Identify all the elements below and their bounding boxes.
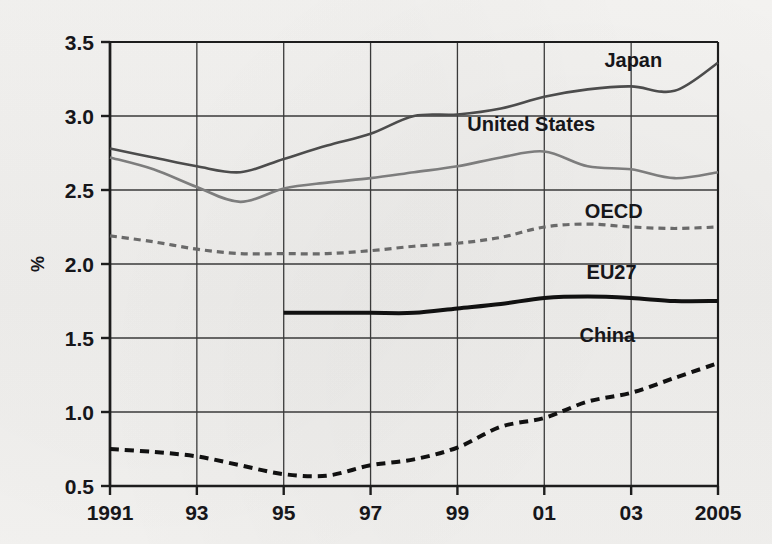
y-tick-label: 3.0 <box>65 105 94 128</box>
series-line-eu27 <box>284 297 718 314</box>
series-line-japan <box>110 63 718 173</box>
chart-container: 3.53.02.52.01.51.00.51991939597990103200… <box>0 0 772 544</box>
x-tick-label: 1991 <box>87 501 134 524</box>
y-tick-label: 1.0 <box>65 401 94 424</box>
series-label-united-states: United States <box>467 113 595 135</box>
y-tick-label: 2.5 <box>65 179 95 202</box>
x-tick-label: 99 <box>446 501 469 524</box>
y-tick-label: 2.0 <box>65 253 94 276</box>
y-tick-label: 0.5 <box>65 475 95 498</box>
series-line-oecd <box>110 224 718 254</box>
y-tick-label: 1.5 <box>65 327 95 350</box>
series-line-china <box>110 363 718 476</box>
series-line-united-states <box>110 151 718 202</box>
x-tick-label: 95 <box>272 501 296 524</box>
tick-labels: 3.53.02.52.01.51.00.51991939597990103200… <box>65 31 742 524</box>
series-label-japan: Japan <box>604 49 662 71</box>
x-tick-label: 01 <box>533 501 557 524</box>
series-label-eu27: EU27 <box>587 261 637 283</box>
y-tick-label: 3.5 <box>65 31 95 54</box>
series-label-china: China <box>579 324 635 346</box>
y-axis-label: % <box>28 256 48 272</box>
x-tick-label: 97 <box>359 501 382 524</box>
series-label-oecd: OECD <box>585 200 643 222</box>
x-tick-label: 03 <box>619 501 642 524</box>
x-tick-label: 93 <box>185 501 208 524</box>
y-axis-title: % <box>28 256 48 272</box>
line-chart: 3.53.02.52.01.51.00.51991939597990103200… <box>0 0 772 544</box>
x-tick-label: 2005 <box>695 501 742 524</box>
